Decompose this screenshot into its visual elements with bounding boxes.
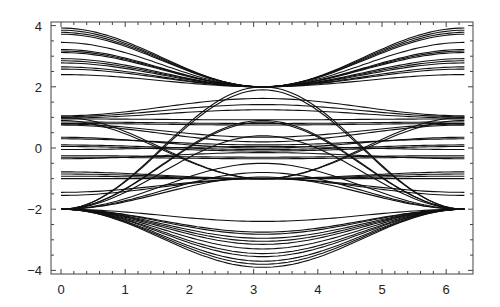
y-tick-label: 2 xyxy=(35,80,42,95)
y-tick-label: 0 xyxy=(35,141,42,156)
band-curve xyxy=(61,121,464,210)
y-tick-label: −2 xyxy=(27,202,42,217)
x-tick-label: 3 xyxy=(250,282,257,297)
x-tick-label: 1 xyxy=(122,282,129,297)
x-tick-label: 2 xyxy=(186,282,193,297)
x-tick-label: 4 xyxy=(314,282,321,297)
band-curve xyxy=(61,69,464,87)
band-curve xyxy=(61,75,464,87)
y-tick-label: 4 xyxy=(35,19,42,34)
band-curve xyxy=(61,105,464,117)
band-curve xyxy=(61,119,464,120)
band-curve xyxy=(61,179,464,196)
band-curve xyxy=(61,122,464,209)
x-tick-label: 5 xyxy=(378,282,385,297)
band-curve xyxy=(61,51,464,87)
x-tick-label: 6 xyxy=(443,282,450,297)
y-tick-label: −4 xyxy=(27,263,42,278)
band-curve xyxy=(61,98,464,116)
curves-group xyxy=(61,28,464,267)
band-structure-chart: 0123456−4−2024 xyxy=(0,0,500,307)
x-tick-label: 0 xyxy=(57,282,64,297)
band-curve xyxy=(61,177,464,209)
